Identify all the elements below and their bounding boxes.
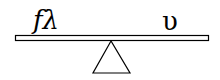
left-weight-label: fλ	[33, 7, 59, 33]
right-weight-label: υ	[162, 8, 178, 34]
fulcrum-triangle	[93, 41, 130, 73]
seesaw-beam	[16, 36, 209, 41]
